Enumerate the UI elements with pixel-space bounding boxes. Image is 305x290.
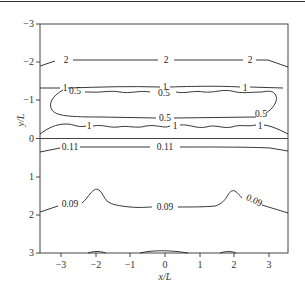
contour-label: 1 bbox=[173, 121, 178, 131]
y-tick-label: −3 bbox=[23, 18, 34, 29]
x-tick-label: −3 bbox=[56, 259, 67, 270]
x-axis-label: x/L bbox=[158, 271, 172, 282]
contour-label: 0.5 bbox=[159, 113, 171, 123]
x-tick-label: 3 bbox=[267, 259, 272, 270]
x-axis-ticks bbox=[61, 253, 269, 257]
contour-chart: −3 −2 −1 0 1 2 3 y/L −3 −2 −1 0 1 2 3 x/… bbox=[0, 0, 305, 290]
contour-label: 1 bbox=[243, 83, 248, 93]
contour-label: 1 bbox=[258, 121, 263, 131]
y-axis-label: y/L bbox=[15, 113, 26, 127]
y-tick-label: 3 bbox=[29, 247, 34, 258]
y-tick-label: 1 bbox=[29, 171, 34, 182]
x-tick-label: −2 bbox=[91, 259, 102, 270]
x-tick-label: 1 bbox=[198, 259, 203, 270]
y-axis-tick-labels: −3 −2 −1 0 1 2 3 bbox=[23, 18, 34, 258]
contour-level-0.09: 0.09 0.09 0.09 bbox=[40, 189, 288, 213]
y-tick-label: −1 bbox=[23, 94, 34, 105]
contour-label: 0.11 bbox=[157, 142, 174, 152]
contour-label: 0.09 bbox=[157, 202, 174, 212]
x-tick-label: 0 bbox=[163, 259, 168, 270]
contour-label: 1 bbox=[63, 83, 68, 93]
contour-label: 1 bbox=[87, 121, 92, 131]
x-axis-tick-labels: −3 −2 −1 0 1 2 3 bbox=[56, 259, 272, 270]
y-axis-ticks bbox=[36, 24, 40, 253]
y-tick-label: 0 bbox=[29, 133, 34, 144]
contour-label: 0.5 bbox=[255, 109, 267, 119]
contour-label: 2 bbox=[164, 55, 169, 65]
y-tick-label: −2 bbox=[23, 56, 34, 67]
contour-label: 0.09 bbox=[62, 199, 79, 209]
contour-label: 0.5 bbox=[158, 88, 170, 98]
contour-label: 0.11 bbox=[62, 142, 79, 152]
contour-label: 0.5 bbox=[69, 86, 81, 96]
x-tick-label: −1 bbox=[125, 259, 136, 270]
contour-label: 2 bbox=[64, 55, 69, 65]
contour-level-2: 2 2 2 bbox=[40, 55, 288, 67]
y-tick-label: 2 bbox=[29, 209, 34, 220]
contour-level-0.11: 0.11 0.11 bbox=[40, 142, 288, 152]
contour-label: 2 bbox=[248, 55, 253, 65]
contour-label: 0.09 bbox=[245, 192, 265, 208]
x-tick-label: 2 bbox=[232, 259, 237, 270]
